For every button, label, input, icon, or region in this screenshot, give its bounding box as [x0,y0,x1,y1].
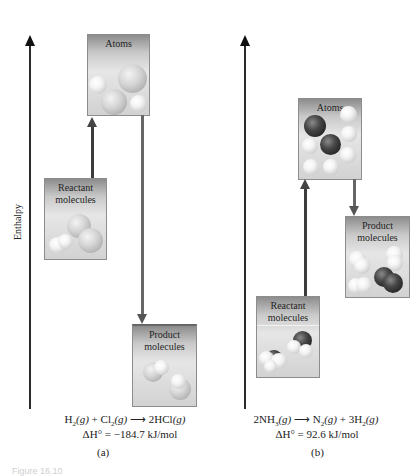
cl-atom [118,64,147,93]
box-title: Reactant molecules [45,182,106,206]
panel-label-b: (b) [311,446,324,458]
energy-release-arrow [141,115,144,320]
reactant-box-b: Reactant molecules [256,296,320,378]
h-atom [89,76,107,94]
energy-input-arrow [304,188,307,296]
arrow-up-icon [300,179,310,189]
energy-release-arrow [353,179,356,209]
box-title: Atoms [88,38,149,50]
arrow-up-icon [87,117,97,127]
h-atom [303,159,319,175]
h2-molecule [58,234,73,249]
equation-a: H2(g) + Cl2(g) ⟶ 2HCl(g) [60,413,190,428]
equation-b: 2NH3(g) ⟶ N2(g) + 3H2(g) [246,413,386,428]
enthalpy-axis-b [244,44,246,409]
h2-molecule [354,258,370,274]
cl2-molecule [78,228,103,253]
axis-line [29,44,31,409]
arrow-up-icon [240,35,250,46]
h-atom [340,106,357,123]
n-atom [304,115,326,137]
delta-h-b: ΔH° = 92.6 kJ/mol [262,428,372,440]
h-atom [154,360,169,375]
product-box-a: Product molecules [132,324,197,407]
h-atom [171,374,186,389]
reaction-arrow-icon: ⟶ [294,413,310,425]
delta-h-a: ΔH° = −184.7 kJ/mol [70,428,190,440]
box-title: Product molecules [346,220,409,244]
arrow-down-icon [349,206,359,216]
h-atom [264,360,277,373]
energy-input-arrow [91,126,94,178]
panel-label-a: (a) [97,446,109,458]
h-atom [130,95,147,112]
figure-caption: Figure 16.10 [12,466,63,476]
h-atom [302,138,318,154]
atoms-box-a: Atoms [87,34,150,116]
reaction-arrow-icon: ⟶ [130,413,146,425]
h-atom [340,147,356,163]
cl-atom [101,89,127,115]
arrow-up-icon [25,35,35,46]
arrow-down-icon [137,314,147,324]
reactant-box-a: Reactant molecules [44,178,107,260]
y-axis-label: Enthalpy [12,204,23,240]
n2-molecule [383,273,403,293]
h-atom [341,126,357,142]
product-box-b: Product molecules [345,216,410,298]
h2-molecule [356,277,372,293]
h-atom [323,159,339,175]
box-title: Reactant molecules [257,300,319,324]
h-atom [299,344,313,358]
box-title: Product molecules [133,329,196,353]
n-atom [320,134,341,155]
atoms-box-b: Atoms [298,98,362,180]
